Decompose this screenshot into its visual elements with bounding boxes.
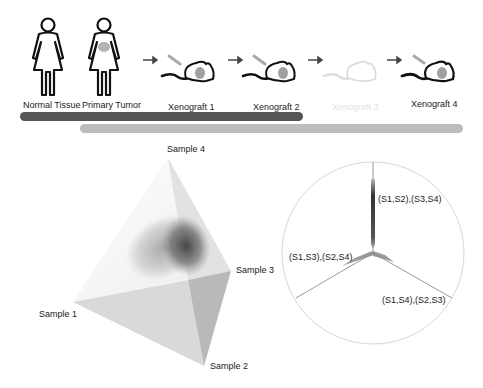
arrow-icon xyxy=(228,57,242,63)
stage-label-primary-tumor: Primary Tumor xyxy=(82,100,141,110)
mouse-faded-icon xyxy=(324,62,376,81)
stage-label-xenograft-3: Xenograft 3 xyxy=(332,102,379,112)
syringe-icon xyxy=(414,56,424,63)
arrow-icon xyxy=(387,57,401,63)
stage-label-xenograft-1: Xenograft 1 xyxy=(168,102,215,112)
branch-label-s1s3-s2s4: (S1,S3),(S2,S4) xyxy=(289,252,353,262)
branch-label-s1s4-s2s3: (S1,S4),(S2,S3) xyxy=(382,295,446,305)
vertex-label-sample-3: Sample 3 xyxy=(236,265,274,275)
mouse-with-tumor-icon xyxy=(162,62,214,81)
branch-label-s1s2-s3s4: (S1,S2),(S3,S4) xyxy=(378,194,442,204)
vertex-label-sample-2: Sample 2 xyxy=(210,361,248,371)
syringe-icon xyxy=(169,56,180,64)
woman-figure-icon xyxy=(33,19,63,96)
stage-label-normal-tissue: Normal Tissue xyxy=(23,100,81,110)
mouse-with-tumor-icon xyxy=(402,62,454,81)
tetrahedron-plot xyxy=(73,158,231,366)
stage-label-xenograft-2: Xenograft 2 xyxy=(253,102,300,112)
arrow-icon xyxy=(308,57,322,63)
dark-range-bar xyxy=(20,112,303,121)
syringe-icon xyxy=(254,56,265,64)
light-range-bar xyxy=(80,124,463,133)
arrow-icon xyxy=(143,57,157,63)
woman-figure-with-tumor-icon xyxy=(89,19,119,96)
mouse-with-tumor-icon xyxy=(243,62,295,81)
stage-label-xenograft-4: Xenograft 4 xyxy=(411,99,458,109)
tumor-icon xyxy=(98,42,110,52)
vertex-label-sample-1: Sample 1 xyxy=(39,309,77,319)
vertex-label-sample-4: Sample 4 xyxy=(167,144,205,154)
